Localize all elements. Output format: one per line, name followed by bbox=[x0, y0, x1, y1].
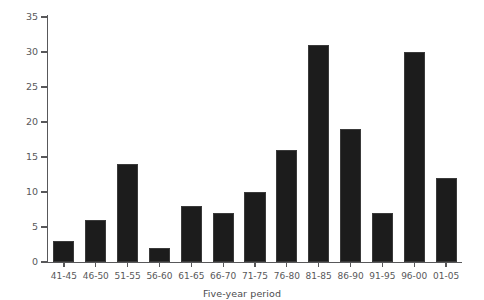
y-axis-tick-label: 15 bbox=[8, 152, 38, 162]
y-axis-tick-label: 0 bbox=[8, 257, 38, 267]
y-axis-tick bbox=[41, 156, 47, 157]
bar bbox=[181, 206, 202, 262]
y-axis-tick bbox=[41, 226, 47, 227]
x-axis-tick bbox=[223, 262, 224, 267]
x-axis-tick bbox=[127, 262, 128, 267]
x-axis-tick bbox=[445, 262, 446, 267]
x-axis-tick bbox=[95, 262, 96, 267]
x-axis-tick bbox=[286, 262, 287, 267]
bar bbox=[372, 213, 393, 262]
bar bbox=[308, 45, 329, 262]
y-axis-tick bbox=[41, 51, 47, 52]
x-axis-tick bbox=[382, 262, 383, 267]
y-axis-tick bbox=[41, 261, 47, 262]
bar bbox=[340, 129, 361, 262]
x-axis-tick bbox=[318, 262, 319, 267]
y-axis-tick bbox=[41, 16, 47, 17]
bar-chart: Number of birds 05101520253035 41-4546-5… bbox=[0, 0, 484, 300]
bar bbox=[85, 220, 106, 262]
x-axis-tick bbox=[254, 262, 255, 267]
y-axis-tick bbox=[41, 191, 47, 192]
bar bbox=[244, 192, 265, 262]
x-axis-tick bbox=[350, 262, 351, 267]
bar bbox=[213, 213, 234, 262]
y-axis-tick-label: 35 bbox=[8, 12, 38, 22]
x-axis-title: Five-year period bbox=[0, 288, 484, 299]
bar bbox=[117, 164, 138, 262]
plot-area bbox=[48, 17, 462, 262]
x-axis-tick-label: 01-05 bbox=[426, 271, 466, 282]
y-axis-tick-label: 5 bbox=[8, 222, 38, 232]
y-axis-tick-label: 30 bbox=[8, 47, 38, 57]
x-axis-tick bbox=[159, 262, 160, 267]
bar bbox=[149, 248, 170, 262]
y-axis-tick bbox=[41, 121, 47, 122]
x-axis-tick bbox=[63, 262, 64, 267]
y-axis-tick-label: 20 bbox=[8, 117, 38, 127]
y-axis-tick-label: 10 bbox=[8, 187, 38, 197]
bar bbox=[404, 52, 425, 262]
bar bbox=[436, 178, 457, 262]
bar bbox=[53, 241, 74, 262]
x-axis-tick bbox=[191, 262, 192, 267]
x-axis-tick bbox=[414, 262, 415, 267]
y-axis-tick bbox=[41, 86, 47, 87]
bar bbox=[276, 150, 297, 262]
y-axis-tick-label: 25 bbox=[8, 82, 38, 92]
